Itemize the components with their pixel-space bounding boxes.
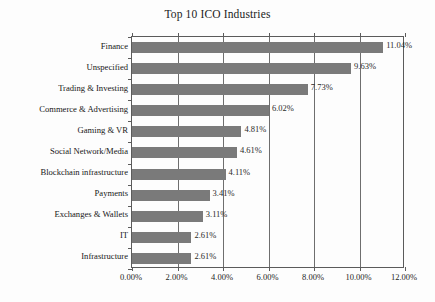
category-axis-labels: FinanceUnspecifiedTrading & InvestingCom…: [0, 36, 128, 268]
bar: [132, 169, 226, 180]
bar-value-label: 6.02%: [272, 102, 294, 114]
bar-value-label: 3.11%: [206, 208, 228, 220]
bar-row: 9.63%: [132, 58, 405, 79]
x-tick-mark: [405, 33, 406, 37]
bar-row: 3.41%: [132, 185, 405, 206]
bar: [132, 42, 383, 53]
y-tick-mark: [128, 269, 132, 270]
bar: [132, 253, 191, 264]
bar-row: 2.61%: [132, 227, 405, 248]
category-label: Social Network/Media: [0, 146, 128, 156]
category-label: Trading & Investing: [0, 83, 128, 93]
category-label: Finance: [0, 41, 128, 51]
bar: [132, 232, 191, 243]
bar-row: 7.73%: [132, 79, 405, 100]
bar-value-label: 11.04%: [386, 39, 412, 51]
bar-value-label: 2.61%: [194, 250, 216, 262]
bar: [132, 84, 308, 95]
bar: [132, 105, 269, 116]
category-label: Exchanges & Wallets: [0, 209, 128, 219]
chart-title: Top 10 ICO Industries: [0, 8, 435, 20]
bar: [132, 211, 203, 222]
bar-row: 6.02%: [132, 100, 405, 121]
bar: [132, 190, 210, 201]
bar-value-label: 4.61%: [240, 144, 262, 156]
bar-row: 11.04%: [132, 37, 405, 58]
plot-area: 11.04%9.63%7.73%6.02%4.81%4.61%4.11%3.41…: [131, 36, 404, 268]
bar-row: 4.81%: [132, 121, 405, 142]
category-label: Payments: [0, 188, 128, 198]
bar-value-label: 3.41%: [213, 187, 235, 199]
bar-value-label: 2.61%: [194, 229, 216, 241]
bar: [132, 147, 237, 158]
bar-row: 3.11%: [132, 206, 405, 227]
x-axis-labels: 0.00%2.00%4.00%6.00%8.00%10.00%12.00%: [0, 272, 435, 288]
bar-value-label: 4.11%: [229, 166, 251, 178]
bar: [132, 126, 241, 137]
category-label: Unspecified: [0, 62, 128, 72]
bar-row: 2.61%: [132, 248, 405, 269]
bar-chart: Top 10 ICO Industries FinanceUnspecified…: [0, 0, 435, 302]
category-label: Commerce & Advertising: [0, 104, 128, 114]
x-tick-mark: [405, 267, 406, 271]
category-label: Blockchain infrastructure: [0, 167, 128, 177]
x-axis-tick-label: 12.00%: [374, 272, 434, 282]
bar-row: 4.61%: [132, 142, 405, 163]
bar-value-label: 7.73%: [311, 81, 333, 93]
bar: [132, 63, 351, 74]
bar-row: 4.11%: [132, 164, 405, 185]
bar-value-label: 9.63%: [354, 60, 376, 72]
category-label: Gaming & VR: [0, 125, 128, 135]
category-label: IT: [0, 230, 128, 240]
category-label: Infrastructure: [0, 251, 128, 261]
bar-value-label: 4.81%: [244, 123, 266, 135]
